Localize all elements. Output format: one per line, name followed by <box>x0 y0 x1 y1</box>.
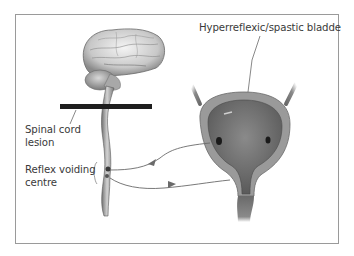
lesion-label: Spinal cord lesion <box>25 124 81 149</box>
lesion-bar <box>60 104 152 109</box>
brain-illustration <box>83 29 164 90</box>
lesion-leader-line <box>70 110 76 124</box>
afferent-arrow <box>110 143 210 170</box>
bladder-leader-line <box>248 60 252 92</box>
efferent-arrow <box>110 178 230 189</box>
lesion-label-line2: lesion <box>25 137 81 150</box>
bladder-illustration <box>192 84 296 222</box>
bladder-leader-line <box>252 36 260 60</box>
reflex-centre-node <box>105 174 109 178</box>
bladder-label: Hyperreflexic/spastic bladde <box>199 22 341 35</box>
bladder-label-text: Hyperreflexic/spastic bladde <box>199 22 341 33</box>
lesion-label-line1: Spinal cord <box>25 124 81 137</box>
reflex-centre-node <box>106 167 111 172</box>
reflex-label-line1: Reflex voiding <box>25 164 96 177</box>
reflex-centre-label: Reflex voiding centre <box>25 164 96 189</box>
reflex-label-line2: centre <box>25 177 96 190</box>
